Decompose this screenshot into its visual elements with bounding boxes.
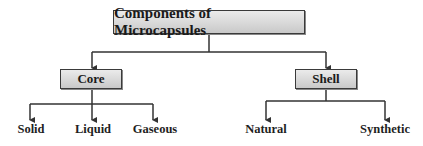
branch-node-shell: Shell xyxy=(295,69,357,89)
root-label: Components of Microcapsules xyxy=(114,5,304,39)
core-label: Core xyxy=(77,71,104,87)
leaf-solid: Solid xyxy=(17,122,44,137)
shell-label: Shell xyxy=(312,71,339,87)
leaf-liquid: Liquid xyxy=(75,122,111,137)
branch-node-core: Core xyxy=(60,69,122,89)
root-node: Components of Microcapsules xyxy=(113,10,305,34)
leaf-synthetic: Synthetic xyxy=(360,122,410,137)
leaf-gaseous: Gaseous xyxy=(133,122,177,137)
leaf-natural: Natural xyxy=(245,122,287,137)
